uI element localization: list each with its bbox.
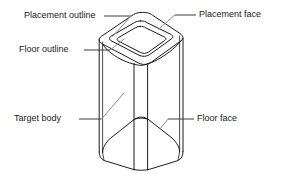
label-placement-face: Placement face bbox=[199, 9, 261, 20]
floor-outline-path bbox=[117, 26, 166, 53]
leader-floor-face-tail bbox=[161, 119, 169, 129]
label-floor-outline: Floor outline bbox=[19, 44, 69, 55]
diagram-artwork bbox=[0, 0, 284, 183]
placement-face-outline bbox=[99, 12, 183, 64]
label-floor-face: Floor face bbox=[197, 113, 237, 124]
floor-face-shape bbox=[103, 117, 180, 153]
floor-face-outline bbox=[103, 117, 180, 153]
body-bottom-outline bbox=[99, 151, 183, 170]
leader-target-body-tail bbox=[102, 93, 125, 119]
diagram-canvas: Placement outline Floor outline Target b… bbox=[0, 0, 284, 183]
floor-face-apex-ridge bbox=[134, 118, 149, 120]
label-placement-outline: Placement outline bbox=[24, 10, 96, 21]
leader-placement-face-tail bbox=[158, 15, 175, 30]
label-target-body: Target body bbox=[14, 113, 61, 124]
